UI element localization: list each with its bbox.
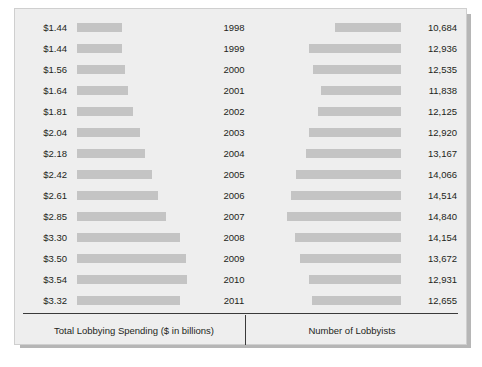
spending-bar bbox=[77, 296, 180, 305]
screenshot-stage: $1.44199810,684$1.44199912,936$1.5620001… bbox=[0, 0, 482, 367]
spending-value-label: $3.32 bbox=[21, 290, 67, 311]
spending-bar bbox=[77, 191, 158, 200]
lobbyists-value-label: 14,066 bbox=[407, 164, 457, 185]
spending-value-label: $1.56 bbox=[21, 59, 67, 80]
chart-row: $1.81200212,125 bbox=[15, 101, 466, 122]
lobbyists-bar bbox=[309, 128, 401, 137]
spending-value-label: $1.44 bbox=[21, 38, 67, 59]
spending-bar bbox=[77, 149, 145, 158]
lobbyists-bar-track bbox=[287, 212, 401, 221]
lobbyists-value-label: 12,535 bbox=[407, 59, 457, 80]
spending-bar-track bbox=[77, 170, 187, 179]
lobbyists-bar-track bbox=[287, 44, 401, 53]
year-label: 2003 bbox=[211, 122, 257, 143]
lobbyists-bar-track bbox=[287, 128, 401, 137]
year-label: 2007 bbox=[211, 206, 257, 227]
chart-row: $1.56200012,535 bbox=[15, 59, 466, 80]
year-label: 1999 bbox=[211, 38, 257, 59]
spending-bar bbox=[77, 107, 133, 116]
lobbyists-bar-track bbox=[287, 65, 401, 74]
lobbyists-value-label: 14,154 bbox=[407, 227, 457, 248]
chart-row: $1.44199810,684 bbox=[15, 17, 466, 38]
lobbyists-value-label: 14,514 bbox=[407, 185, 457, 206]
spending-bar bbox=[77, 233, 180, 242]
lobbyists-bar bbox=[309, 44, 401, 53]
lobbyists-bar-track bbox=[287, 23, 401, 32]
spending-value-label: $3.54 bbox=[21, 269, 67, 290]
chart-rows-container: $1.44199810,684$1.44199912,936$1.5620001… bbox=[15, 9, 466, 306]
lobbyists-value-label: 11,838 bbox=[407, 80, 457, 101]
lobbyists-bar bbox=[313, 65, 401, 74]
lobbyists-bar-track bbox=[287, 170, 401, 179]
lobbyists-bar-track bbox=[287, 254, 401, 263]
lobbyists-bar-track bbox=[287, 275, 401, 284]
spending-bar bbox=[77, 170, 152, 179]
spending-value-label: $2.85 bbox=[21, 206, 67, 227]
spending-bar bbox=[77, 128, 140, 137]
footer-label-lobbyists: Number of Lobbyists bbox=[245, 314, 459, 346]
spending-bar-track bbox=[77, 107, 187, 116]
chart-footer: Total Lobbying Spending ($ in billions) … bbox=[23, 313, 458, 346]
lobbyists-value-label: 12,931 bbox=[407, 269, 457, 290]
chart-row: $2.61200614,514 bbox=[15, 185, 466, 206]
spending-value-label: $1.44 bbox=[21, 17, 67, 38]
lobbyists-bar bbox=[312, 296, 401, 305]
lobbyists-bar-track bbox=[287, 149, 401, 158]
spending-bar bbox=[77, 23, 122, 32]
lobbyists-value-label: 12,920 bbox=[407, 122, 457, 143]
lobbyists-value-label: 14,840 bbox=[407, 206, 457, 227]
lobbyists-value-label: 10,684 bbox=[407, 17, 457, 38]
year-label: 2006 bbox=[211, 185, 257, 206]
year-label: 1998 bbox=[211, 17, 257, 38]
lobbyists-bar bbox=[318, 107, 401, 116]
year-label: 2011 bbox=[211, 290, 257, 311]
spending-bar bbox=[77, 86, 128, 95]
lobbyists-bar bbox=[295, 233, 401, 242]
lobbyists-bar-track bbox=[287, 296, 401, 305]
spending-bar-track bbox=[77, 86, 187, 95]
year-label: 2005 bbox=[211, 164, 257, 185]
year-label: 2004 bbox=[211, 143, 257, 164]
spending-bar-track bbox=[77, 275, 187, 284]
spending-bar-track bbox=[77, 65, 187, 74]
spending-bar bbox=[77, 212, 166, 221]
spending-bar-track bbox=[77, 254, 187, 263]
chart-row: $2.18200413,167 bbox=[15, 143, 466, 164]
chart-row: $1.64200111,838 bbox=[15, 80, 466, 101]
spending-value-label: $1.81 bbox=[21, 101, 67, 122]
spending-bar-track bbox=[77, 149, 187, 158]
spending-value-label: $2.04 bbox=[21, 122, 67, 143]
lobbyists-bar bbox=[309, 275, 401, 284]
chart-row: $3.50200913,672 bbox=[15, 248, 466, 269]
spending-value-label: $3.50 bbox=[21, 248, 67, 269]
chart-row: $3.54201012,931 bbox=[15, 269, 466, 290]
lobbyists-bar bbox=[296, 170, 401, 179]
spending-value-label: $2.18 bbox=[21, 143, 67, 164]
spending-bar bbox=[77, 254, 186, 263]
lobbyists-bar-track bbox=[287, 107, 401, 116]
lobbyists-value-label: 12,936 bbox=[407, 38, 457, 59]
lobbyists-bar bbox=[306, 149, 401, 158]
lobbyists-value-label: 13,672 bbox=[407, 248, 457, 269]
year-label: 2010 bbox=[211, 269, 257, 290]
year-label: 2008 bbox=[211, 227, 257, 248]
lobbyists-bar bbox=[321, 86, 401, 95]
spending-bar bbox=[77, 65, 125, 74]
spending-bar-track bbox=[77, 44, 187, 53]
chart-row: $2.85200714,840 bbox=[15, 206, 466, 227]
lobbyists-bar bbox=[287, 212, 401, 221]
lobbyists-bar bbox=[335, 23, 401, 32]
year-label: 2002 bbox=[211, 101, 257, 122]
footer-label-spending: Total Lobbying Spending ($ in billions) bbox=[23, 314, 245, 346]
lobbyists-bar bbox=[300, 254, 401, 263]
chart-row: $1.44199912,936 bbox=[15, 38, 466, 59]
lobbyists-value-label: 13,167 bbox=[407, 143, 457, 164]
spending-bar bbox=[77, 275, 187, 284]
chart-row: $3.30200814,154 bbox=[15, 227, 466, 248]
spending-bar bbox=[77, 44, 122, 53]
spending-bar-track bbox=[77, 296, 187, 305]
lobbyists-bar-track bbox=[287, 233, 401, 242]
spending-bar-track bbox=[77, 233, 187, 242]
lobbyists-bar bbox=[291, 191, 401, 200]
year-label: 2001 bbox=[211, 80, 257, 101]
